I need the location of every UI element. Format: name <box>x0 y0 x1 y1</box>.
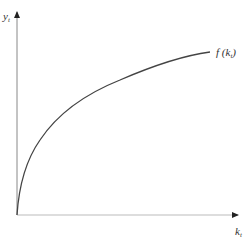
y-axis-subscript: t <box>8 16 10 24</box>
curve-label-suffix: ) <box>232 46 236 58</box>
production-function-curve <box>17 52 210 215</box>
x-axis-label: kt <box>235 226 242 239</box>
production-function-diagram <box>0 0 251 243</box>
curve-label: f (kt) <box>216 47 236 60</box>
x-axis-subscript: t <box>240 231 242 239</box>
y-axis-label: yt <box>3 11 10 24</box>
